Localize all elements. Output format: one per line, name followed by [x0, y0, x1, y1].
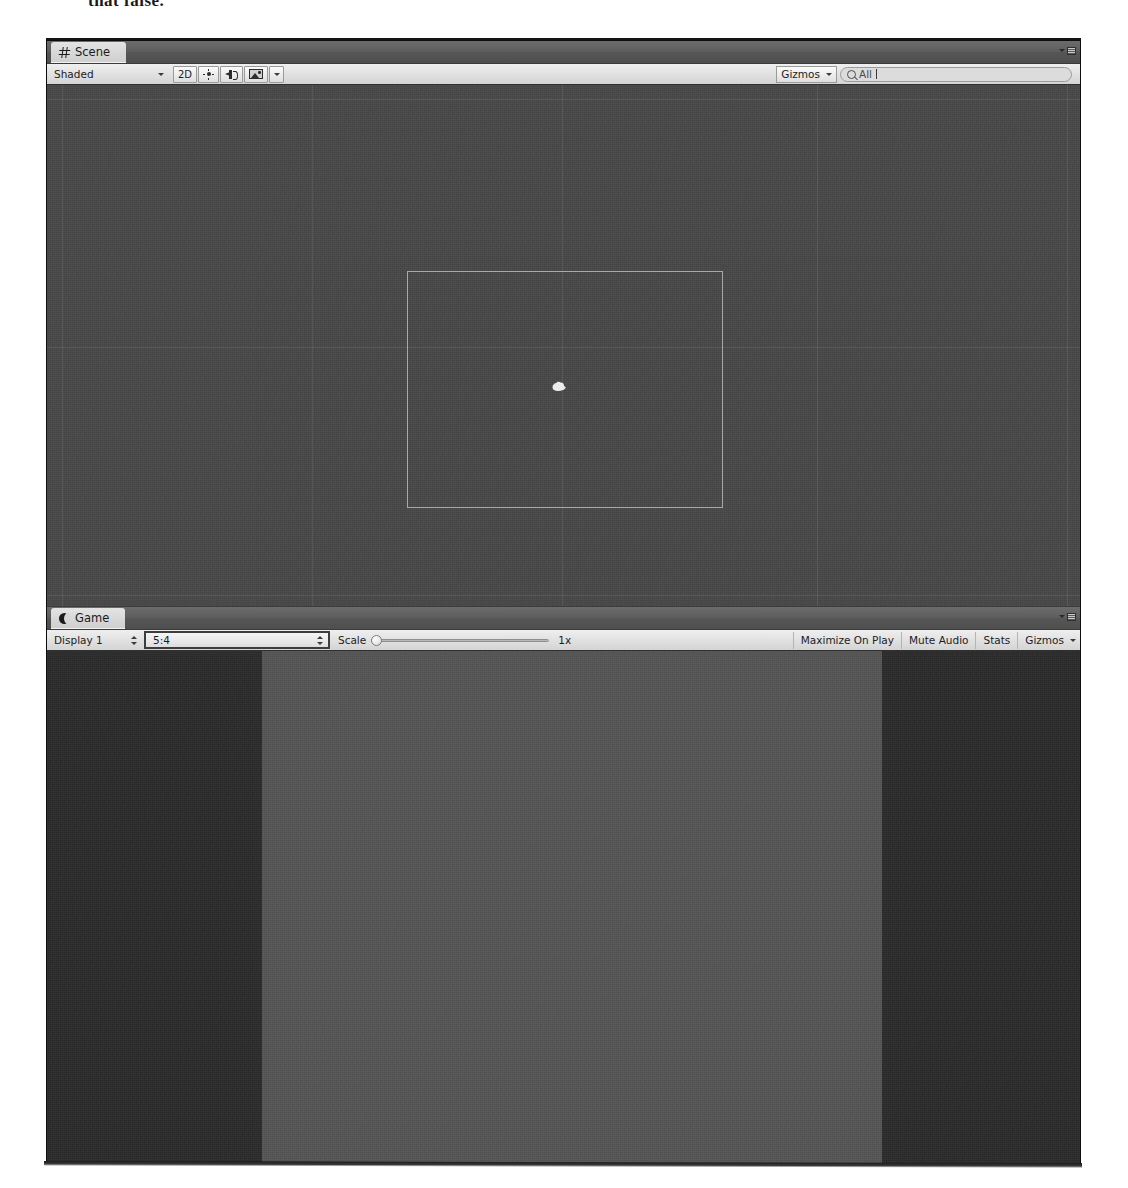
- chevron-down-icon: [1059, 49, 1065, 52]
- 2d-toggle-label: 2D: [178, 69, 192, 80]
- chevron-down-icon: [274, 73, 280, 76]
- display-dropdown[interactable]: Display 1: [47, 632, 142, 649]
- chevron-down-icon: [1070, 639, 1076, 642]
- tab-scene-label: Scene: [75, 47, 110, 59]
- scale-value: 1x: [558, 634, 571, 646]
- aspect-ratio-dropdown[interactable]: 5:4: [144, 631, 330, 649]
- game-toolbar: Display 1 5:4 Scale 1x Maximize On Play: [47, 630, 1080, 651]
- scene-toolbar: Shaded 2D Gizmos: [47, 64, 1080, 85]
- scale-slider-knob[interactable]: [371, 635, 382, 646]
- draw-mode-label: Shaded: [54, 68, 94, 80]
- scale-control: Scale 1x: [338, 634, 571, 646]
- scene-panel: Scene Shaded 2D: [47, 41, 1080, 606]
- search-icon: [847, 70, 856, 79]
- speaker-icon: [225, 69, 238, 80]
- game-gizmos-dropdown[interactable]: Gizmos: [1017, 632, 1080, 649]
- scale-slider-rail: [371, 639, 549, 642]
- game-render-area: [262, 651, 882, 1165]
- maximize-on-play-button[interactable]: Maximize On Play: [793, 632, 901, 649]
- mute-audio-label: Mute Audio: [909, 634, 968, 646]
- scene-panel-options-icon[interactable]: [1056, 45, 1076, 56]
- scene-grid-line: [312, 85, 313, 606]
- scan-edge-bottom: [44, 1161, 1082, 1168]
- display-dropdown-label: Display 1: [54, 634, 103, 646]
- mute-audio-button[interactable]: Mute Audio: [901, 632, 975, 649]
- game-tabbar: Game: [47, 606, 1080, 630]
- lighting-toggle-button[interactable]: [198, 66, 219, 83]
- scene-grid-line: [47, 595, 1080, 596]
- chevron-down-icon: [826, 73, 832, 76]
- draw-mode-dropdown[interactable]: Shaded: [47, 65, 168, 83]
- stepper-icon: [317, 635, 324, 646]
- maximize-on-play-label: Maximize On Play: [801, 634, 894, 646]
- stats-button[interactable]: Stats: [975, 632, 1017, 649]
- game-viewport[interactable]: [47, 651, 1080, 1165]
- tab-game-label: Game: [75, 613, 109, 625]
- scene-tabbar: Scene: [47, 41, 1080, 64]
- scene-viewport[interactable]: [47, 85, 1080, 606]
- game-gizmos-label: Gizmos: [1025, 634, 1064, 646]
- fx-toggle-button[interactable]: [244, 66, 268, 83]
- stepper-icon: [131, 635, 138, 646]
- text-cursor: [876, 69, 877, 79]
- 2d-toggle-button[interactable]: 2D: [173, 66, 197, 83]
- stats-label: Stats: [983, 634, 1010, 646]
- tab-scene[interactable]: Scene: [51, 42, 126, 63]
- sun-icon: [203, 69, 214, 80]
- panel-menu-icon: [1067, 47, 1076, 55]
- moon-icon: [59, 613, 70, 624]
- scene-search-input[interactable]: All: [840, 67, 1072, 82]
- image-icon: [249, 69, 263, 79]
- panel-menu-icon: [1067, 613, 1076, 621]
- scene-search-value: All: [859, 69, 872, 80]
- scene-grid-line: [1067, 85, 1068, 606]
- scene-grid-line: [62, 85, 63, 606]
- audio-toggle-button[interactable]: [220, 66, 243, 83]
- fx-dropdown-button[interactable]: [269, 66, 284, 83]
- scale-slider[interactable]: [371, 635, 549, 646]
- hash-icon: [58, 47, 71, 58]
- scale-label: Scale: [338, 634, 366, 646]
- page-headline-fragment: that false.: [88, 0, 164, 11]
- chevron-down-icon: [158, 73, 164, 76]
- aspect-ratio-label: 5:4: [153, 634, 170, 646]
- game-panel-options-icon[interactable]: [1056, 611, 1076, 622]
- chevron-down-icon: [1059, 615, 1065, 618]
- scene-grid-line: [47, 99, 1080, 100]
- scene-gizmos-label: Gizmos: [781, 68, 820, 80]
- unity-editor-window: Scene Shaded 2D: [46, 40, 1081, 1165]
- scene-grid-line: [817, 85, 818, 606]
- tab-game[interactable]: Game: [51, 608, 125, 629]
- scene-sprite[interactable]: [550, 380, 567, 394]
- scene-gizmos-dropdown[interactable]: Gizmos: [776, 66, 837, 83]
- game-panel: Game Display 1 5:4 Scale: [47, 606, 1080, 1164]
